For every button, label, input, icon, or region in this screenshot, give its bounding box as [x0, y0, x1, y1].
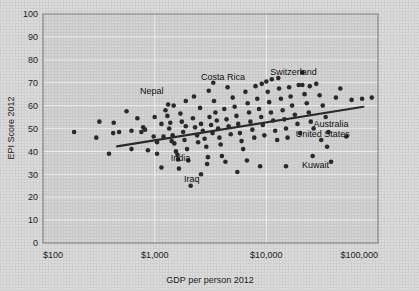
data-point: [214, 118, 219, 123]
data-point: [296, 83, 301, 88]
data-point: [225, 85, 230, 90]
y-tick-label-10: 10: [28, 215, 38, 225]
y-axis-title: EPI Score 2012: [6, 96, 16, 159]
data-point: [258, 164, 263, 169]
data-point: [230, 95, 235, 100]
data-point: [308, 119, 313, 124]
data-point: [188, 183, 193, 188]
data-point: [205, 162, 210, 167]
data-point: [245, 158, 250, 163]
data-point: [257, 107, 262, 112]
data-point: [310, 154, 315, 159]
data-point: [107, 151, 112, 156]
data-point: [181, 130, 186, 135]
data-point: [111, 131, 116, 136]
epi-gdp-scatter-chart: 0102030405060708090100 $100$1,000$10,000…: [0, 0, 419, 291]
data-point: [270, 77, 275, 82]
data-point: [212, 99, 217, 104]
data-point: [171, 103, 176, 108]
data-point: [239, 139, 244, 144]
data-point: [223, 159, 228, 164]
annotation-iraq: Iraq: [184, 174, 200, 184]
y-tick-label-100: 100: [23, 9, 38, 19]
data-point: [259, 115, 264, 120]
x-tick-label-100000: $100,000: [340, 250, 378, 260]
x-tick-label-100: $100: [43, 250, 63, 260]
annotation-costa-rica: Costa Rica: [201, 72, 245, 82]
data-point: [191, 116, 196, 121]
data-point: [220, 154, 225, 159]
data-point: [264, 79, 269, 84]
x-axis-title: GDP per person 2012: [166, 275, 253, 285]
data-point: [202, 137, 207, 142]
data-point: [262, 133, 267, 138]
data-point: [250, 127, 255, 132]
data-point: [166, 102, 171, 107]
y-tick-label-0: 0: [33, 238, 38, 248]
data-point: [222, 107, 227, 112]
data-point: [204, 145, 209, 150]
data-point: [360, 96, 365, 101]
data-point: [111, 120, 116, 125]
data-point: [209, 123, 214, 128]
data-point: [193, 125, 198, 130]
data-point: [163, 108, 168, 113]
data-point: [178, 111, 183, 116]
data-point: [117, 130, 122, 135]
data-point: [199, 122, 204, 127]
data-point: [334, 95, 339, 100]
data-point: [338, 86, 343, 91]
y-tick-label-90: 90: [28, 32, 38, 42]
data-point: [284, 164, 289, 169]
data-point: [183, 99, 188, 104]
data-point: [293, 112, 298, 117]
y-tick-label-40: 40: [28, 147, 38, 157]
data-point: [167, 126, 172, 131]
y-tick-label-60: 60: [28, 101, 38, 111]
data-point: [207, 115, 212, 120]
y-tick-label-30: 30: [28, 170, 38, 180]
data-point: [241, 147, 246, 152]
data-point: [329, 159, 334, 164]
data-point: [234, 114, 239, 119]
data-point: [255, 96, 260, 101]
data-point: [252, 135, 257, 140]
data-point: [277, 86, 282, 91]
annotation-india: India: [171, 153, 191, 163]
data-point: [320, 103, 325, 108]
data-point: [288, 94, 293, 99]
data-point: [236, 122, 241, 127]
y-tick-label-20: 20: [28, 192, 38, 202]
data-point: [196, 140, 201, 145]
data-point: [317, 93, 322, 98]
annotation-united-states: United States: [296, 129, 351, 139]
data-point: [247, 110, 252, 115]
data-point: [192, 94, 197, 99]
data-point: [275, 138, 280, 143]
data-point: [94, 135, 99, 140]
data-point: [259, 82, 264, 87]
data-point: [152, 115, 157, 120]
data-point: [182, 138, 187, 143]
y-tick-label-80: 80: [28, 55, 38, 65]
data-point: [306, 110, 311, 115]
data-point: [124, 109, 129, 114]
data-point: [232, 104, 237, 109]
data-point: [185, 147, 190, 152]
data-point: [245, 101, 250, 106]
x-tick-label-10000: $10,000: [250, 250, 283, 260]
annotation-switzerland: Switzerland: [270, 67, 317, 77]
data-point: [314, 82, 319, 87]
data-point: [285, 135, 290, 140]
data-point: [267, 100, 272, 105]
data-point: [287, 85, 292, 90]
annotation-kuwait: Kuwait: [302, 160, 330, 170]
data-point: [295, 122, 300, 127]
data-point: [279, 96, 284, 101]
annotation-australia: Australia: [314, 119, 349, 129]
data-point: [129, 128, 134, 133]
data-point: [129, 147, 134, 152]
data-point: [213, 110, 218, 115]
data-point: [206, 88, 211, 93]
y-tick-label-50: 50: [28, 124, 38, 134]
